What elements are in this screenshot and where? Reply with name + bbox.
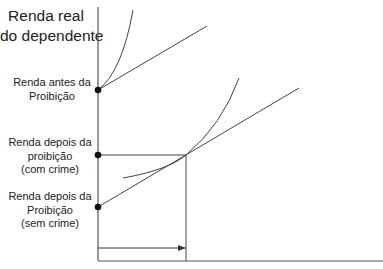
upper-indifference-curve bbox=[98, 10, 133, 90]
lower-indifference-curve bbox=[123, 78, 239, 178]
point-after-without-crime bbox=[95, 204, 102, 211]
point-after-with-crime bbox=[95, 152, 102, 159]
upper-budget-line bbox=[98, 26, 207, 90]
point-before-prohibition bbox=[95, 87, 102, 94]
lower-budget-line bbox=[98, 88, 299, 207]
diagram-canvas bbox=[0, 0, 383, 269]
